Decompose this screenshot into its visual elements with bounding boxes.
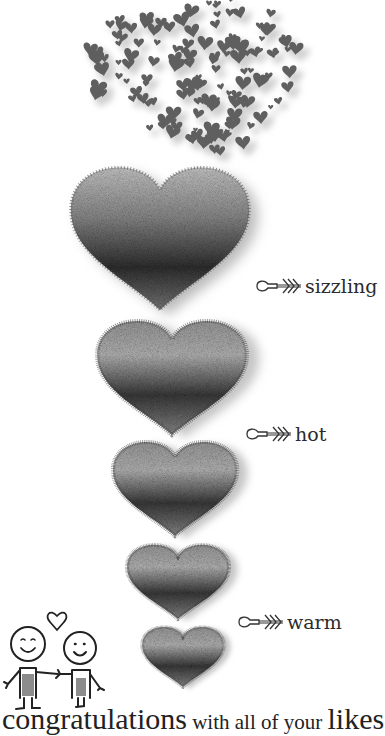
caption: congratulations with all of your likes — [2, 702, 384, 736]
level-label-text: hot — [295, 425, 326, 444]
caption-likes: likes — [328, 702, 385, 735]
level-label-text: sizzling — [305, 277, 377, 296]
heart-warm — [127, 545, 237, 621]
level-label-warm: warm — [237, 612, 342, 632]
heart-medium — [113, 442, 247, 539]
level-label-text: warm — [287, 613, 342, 632]
stick-figure-right — [56, 632, 104, 707]
heart-small — [142, 627, 230, 689]
arrow-fletching-icon — [245, 424, 293, 444]
arrow-fletching-icon — [255, 276, 303, 296]
arrow-fletching-icon — [237, 612, 285, 632]
level-label-sizzling: sizzling — [255, 276, 377, 296]
stick-figure-couple — [0, 608, 130, 708]
heart-sizzling — [71, 167, 258, 316]
heart-hot — [97, 321, 259, 438]
small-heart-icon — [48, 613, 67, 630]
caption-congratulations: congratulations — [2, 702, 187, 735]
level-label-hot: hot — [245, 424, 326, 444]
caption-middle: with all of your — [187, 710, 328, 734]
stick-figure-left — [4, 627, 58, 709]
